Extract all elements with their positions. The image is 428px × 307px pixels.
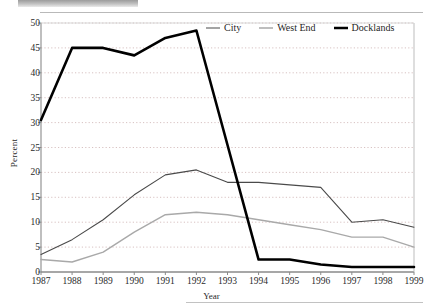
- top-divider-rule: [40, 12, 423, 13]
- bottom-divider-rule: [186, 302, 423, 303]
- gridlines: [41, 23, 414, 247]
- y-tick-25: 25: [18, 143, 40, 153]
- y-tick-15: 15: [18, 192, 40, 202]
- y-tick-50: 50: [18, 18, 40, 28]
- legend-label: West End: [277, 22, 315, 33]
- y-tick-30: 30: [18, 118, 40, 128]
- y-tick-5: 5: [18, 242, 40, 252]
- x-tick-1999: 1999: [391, 276, 428, 286]
- legend-item-west-end[interactable]: West End: [259, 22, 315, 33]
- x-axis-label: Year: [0, 291, 423, 301]
- chart-legend: CityWest EndDocklands: [206, 22, 394, 33]
- legend-item-docklands[interactable]: Docklands: [334, 22, 395, 33]
- legend-swatch-icon: [259, 25, 273, 31]
- y-tick-10: 10: [18, 217, 40, 227]
- legend-swatch-icon: [334, 25, 348, 31]
- y-tick-40: 40: [18, 68, 40, 78]
- series-line-docklands: [41, 30, 414, 267]
- y-tick-45: 45: [18, 43, 40, 53]
- legend-swatch-icon: [206, 25, 220, 31]
- series-line-west-end: [41, 212, 414, 262]
- legend-item-city[interactable]: City: [206, 22, 241, 33]
- legend-label: Docklands: [352, 22, 395, 33]
- y-axis-tick-labels: 05101520253035404550: [0, 0, 40, 307]
- legend-label: City: [224, 22, 241, 33]
- series-line-city: [41, 170, 414, 255]
- data-series-lines: [41, 30, 414, 267]
- y-tick-20: 20: [18, 167, 40, 177]
- y-tick-35: 35: [18, 93, 40, 103]
